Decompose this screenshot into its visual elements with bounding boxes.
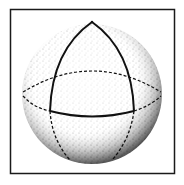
north-pole-vertex <box>91 21 93 23</box>
sphere-diagram <box>0 0 184 185</box>
sphere <box>22 24 162 164</box>
